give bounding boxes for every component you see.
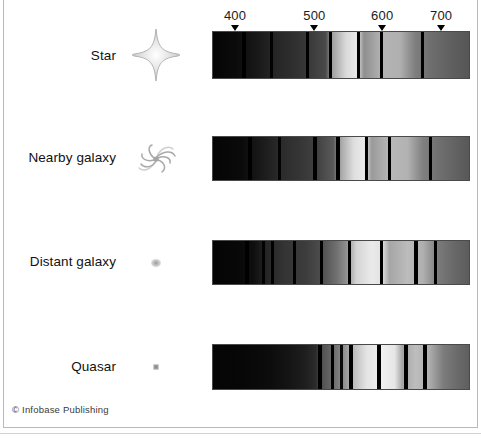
row-label-quasar: Quasar xyxy=(0,359,116,374)
spectrum-row-quasar: Quasar xyxy=(0,344,481,390)
absorption-line xyxy=(245,241,249,284)
absorption-line xyxy=(318,345,322,389)
axis-tick-label-600: 600 xyxy=(371,8,393,23)
absorption-line xyxy=(271,241,275,284)
frame-bottom-border-outer xyxy=(0,433,481,434)
spectrum-row-distant-galaxy: Distant galaxy xyxy=(0,240,481,285)
absorption-line xyxy=(414,241,417,284)
spectrum-bar-nearby-galaxy xyxy=(212,136,470,181)
absorption-line xyxy=(357,32,360,78)
axis-tick-label-400: 400 xyxy=(224,8,246,23)
copyright-credit: © Infobase Publishing xyxy=(12,404,109,415)
absorption-line xyxy=(380,241,383,284)
frame-bottom-border xyxy=(3,427,478,428)
absorption-line xyxy=(404,345,407,389)
row-label-distant-galaxy: Distant galaxy xyxy=(0,254,116,269)
absorption-line xyxy=(313,137,316,180)
absorption-line xyxy=(278,137,281,180)
faint-galaxy-icon xyxy=(128,235,184,291)
absorption-line xyxy=(329,32,332,78)
absorption-line xyxy=(320,241,323,284)
absorption-line xyxy=(365,137,368,180)
spectrum-bar-distant-galaxy xyxy=(212,240,470,285)
absorption-line xyxy=(380,32,383,78)
absorption-line xyxy=(262,241,265,284)
wavelength-axis: 400 500 600 700 xyxy=(212,8,468,32)
absorption-line xyxy=(270,32,273,78)
point-source-icon xyxy=(128,339,184,395)
absorption-line xyxy=(293,241,296,284)
four-point-star-icon xyxy=(128,27,184,83)
absorption-line xyxy=(388,137,391,180)
row-label-star: Star xyxy=(0,48,116,63)
absorption-line xyxy=(336,137,339,180)
spectrum-row-nearby-galaxy: Nearby galaxy xyxy=(0,136,481,181)
absorption-line xyxy=(248,137,252,180)
absorption-line xyxy=(423,345,426,389)
spectrum-bar-star xyxy=(212,31,470,79)
absorption-line xyxy=(429,137,432,180)
spectrum-gradient-star xyxy=(213,32,469,78)
spiral-galaxy-icon xyxy=(128,131,184,187)
absorption-line xyxy=(340,345,343,389)
absorption-line xyxy=(434,241,437,284)
absorption-line xyxy=(377,345,380,389)
axis-tick-label-500: 500 xyxy=(303,8,325,23)
row-label-nearby-galaxy: Nearby galaxy xyxy=(0,150,116,165)
absorption-line xyxy=(306,32,309,78)
axis-tick-label-700: 700 xyxy=(430,8,452,23)
absorption-line xyxy=(331,345,334,389)
absorption-line xyxy=(349,345,352,389)
spectrum-gradient-distant-galaxy xyxy=(213,241,469,284)
spectrum-row-star: Star xyxy=(0,31,481,79)
absorption-line xyxy=(242,32,246,78)
absorption-line xyxy=(421,32,424,78)
spectrum-bar-quasar xyxy=(212,344,470,390)
absorption-line xyxy=(348,241,351,284)
redshift-spectra-figure: 400 500 600 700 Star xyxy=(0,0,481,439)
